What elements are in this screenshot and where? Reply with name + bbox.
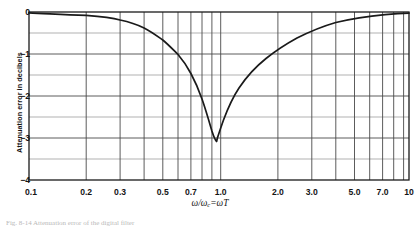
x-tick-0p2: 0.2: [69, 187, 103, 197]
x-axis-tick-labels: 0.1 0.2 0.3 0.5 0.7 1.0 2.0 3.0 5.0 7.0 …: [0, 0, 420, 226]
figure-attenuation-error: Attenuation error in decibels 0 −1 −2 −3…: [0, 0, 420, 226]
x-axis-title: ω/ωc=ωT: [0, 198, 420, 208]
x-tick-2p0: 2.0: [261, 187, 295, 197]
x-axis-title-tail: =ωT: [210, 198, 228, 208]
x-axis-title-lead: ω/ω: [192, 198, 208, 208]
x-tick-1p0: 1.0: [204, 187, 238, 197]
figure-caption: Fig. 8-14 Attenuation error of the digit…: [6, 219, 406, 226]
x-tick-3p0: 3.0: [295, 187, 329, 197]
x-tick-0p3: 0.3: [103, 187, 137, 197]
x-tick-0p1: 0.1: [14, 187, 48, 197]
x-tick-10: 10: [392, 187, 420, 197]
